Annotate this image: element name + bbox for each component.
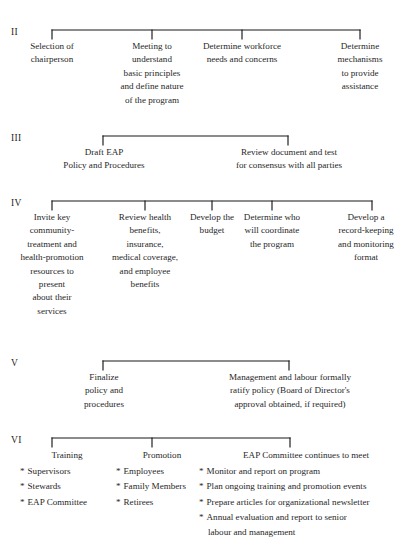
section-ii-column-1: Selection of chairperson xyxy=(2,40,102,67)
text-line: medical coverage, xyxy=(96,251,194,264)
list-item: *Plan ongoing training and promotion eve… xyxy=(199,479,413,494)
list-item: *Prepare articles for organizational new… xyxy=(199,495,413,510)
text-line: basic principles xyxy=(100,67,204,80)
text-line: Review document and test xyxy=(205,146,373,159)
bullet-marker: * xyxy=(199,466,204,476)
text-line: Management and labour formally xyxy=(192,371,388,384)
text-line: chairperson xyxy=(2,53,102,66)
list-item: *Stewards xyxy=(20,479,114,494)
text-line: present xyxy=(5,278,99,291)
bracket-section-v xyxy=(103,361,289,370)
text-line: Policy and Procedures xyxy=(40,159,168,172)
list-item: *Retirees xyxy=(116,495,208,510)
bullet-marker: * xyxy=(116,497,121,507)
section-iv-column-1: Invite key community- treatment and heal… xyxy=(5,211,99,318)
text-line: procedures xyxy=(58,398,150,411)
section-v-column-2: Management and labour formally ratify po… xyxy=(192,371,388,411)
list-item-label: Employees xyxy=(124,466,164,476)
list-item-label: Retirees xyxy=(124,497,154,507)
section-numeral-vi: VI xyxy=(11,435,22,446)
section-ii-column-3: Determine workforce needs and concerns xyxy=(183,40,301,67)
list-item: *Family Members xyxy=(116,479,208,494)
section-v-column-1: Finalize policy and procedures xyxy=(58,371,150,411)
text-line: Draft EAP xyxy=(40,146,168,159)
list-item-label: Stewards xyxy=(28,481,61,491)
list-item-label: Family Members xyxy=(124,481,186,491)
column-heading: EAP Committee continues to meet xyxy=(199,448,413,463)
bracket-section-iii xyxy=(103,136,288,145)
list-item: *Annual evaluation and report to senior xyxy=(199,510,413,525)
text-line: ratify policy (Board of Director's xyxy=(192,384,388,397)
bracket-section-ii xyxy=(52,30,360,39)
section-iv-column-4: Determine who will coordinate the progra… xyxy=(236,211,308,251)
text-line: Finalize xyxy=(58,371,150,384)
text-line: Selection of xyxy=(2,40,102,53)
text-line: health-promotion xyxy=(5,251,99,264)
text-line: Determine workforce xyxy=(183,40,301,53)
list-item-label: Annual evaluation and report to senior xyxy=(207,512,347,522)
bullet-marker: * xyxy=(199,481,204,491)
bullet-marker: * xyxy=(199,512,204,522)
text-line: services xyxy=(5,305,99,318)
text-line: Invite key xyxy=(5,211,99,224)
text-line: community- xyxy=(5,224,99,237)
section-numeral-v: V xyxy=(11,358,18,369)
text-line: Develop a xyxy=(318,211,414,224)
list-item: *Employees xyxy=(116,464,208,479)
section-iv-column-5: Develop a record-keeping and monitoring … xyxy=(318,211,414,265)
list-item-label: Prepare articles for organizational news… xyxy=(207,497,370,507)
bullet-marker: * xyxy=(20,466,25,476)
text-line: record-keeping xyxy=(318,224,414,237)
text-line: and monitoring xyxy=(318,238,414,251)
section-iii-column-1: Draft EAP Policy and Procedures xyxy=(40,146,168,173)
list-item-continuation: labour and management xyxy=(199,525,413,540)
text-line: will coordinate xyxy=(236,224,308,237)
text-line: to provide xyxy=(305,67,415,80)
section-numeral-iii: III xyxy=(11,133,21,144)
section-ii-column-4: Determine mechanisms to provide assistan… xyxy=(305,40,415,94)
text-line: Determine who xyxy=(236,211,308,224)
text-line: of the program xyxy=(100,94,204,107)
list-item: *EAP Committee xyxy=(20,495,114,510)
text-line: assistance xyxy=(305,80,415,93)
section-vi-column-promotion: Promotion *Employees *Family Members *Re… xyxy=(116,448,208,510)
section-numeral-iv: IV xyxy=(11,198,22,209)
text-line: mechanisms xyxy=(305,53,415,66)
text-line: needs and concerns xyxy=(183,53,301,66)
list-item-label: Monitor and report on program xyxy=(207,466,321,476)
text-line: and define nature xyxy=(100,80,204,93)
bullet-marker: * xyxy=(116,466,121,476)
section-vi-column-eap-committee: EAP Committee continues to meet *Monitor… xyxy=(199,448,413,540)
text-line: for consensus with all parties xyxy=(205,159,373,172)
eap-flowchart: II Selection of chairperson Meeting to u… xyxy=(0,0,418,546)
column-heading: Training xyxy=(20,448,114,463)
bullet-marker: * xyxy=(199,497,204,507)
text-line: resources to xyxy=(5,265,99,278)
list-item: *Supervisors xyxy=(20,464,114,479)
text-line: approval obtained, if required) xyxy=(192,398,388,411)
text-line: Determine xyxy=(305,40,415,53)
section-iii-column-2: Review document and test for consensus w… xyxy=(205,146,373,173)
section-vi-column-training: Training *Supervisors *Stewards *EAP Com… xyxy=(20,448,114,510)
bullet-marker: * xyxy=(20,481,25,491)
list-item-label: Plan ongoing training and promotion even… xyxy=(207,481,367,491)
text-line: treatment and xyxy=(5,238,99,251)
bracket-section-vi xyxy=(52,438,290,447)
text-line: and employee xyxy=(96,265,194,278)
text-line: format xyxy=(318,251,414,264)
bullet-marker: * xyxy=(116,481,121,491)
text-line: the program xyxy=(236,238,308,251)
list-item-label: EAP Committee xyxy=(28,497,88,507)
list-item: *Monitor and report on program xyxy=(199,464,413,479)
text-line: about their xyxy=(5,291,99,304)
bullet-marker: * xyxy=(20,497,25,507)
list-item-label: Supervisors xyxy=(28,466,71,476)
text-line: policy and xyxy=(58,384,150,397)
bracket-section-iv xyxy=(52,201,372,210)
section-numeral-ii: II xyxy=(11,27,18,38)
text-line: benefits xyxy=(96,278,194,291)
column-heading: Promotion xyxy=(116,448,208,463)
text-line: insurance, xyxy=(96,238,194,251)
